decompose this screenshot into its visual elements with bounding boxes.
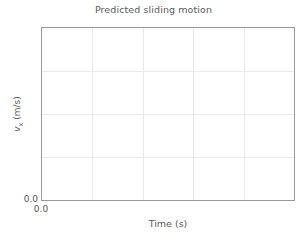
chart-figure: Predicted sliding motion vx (m/s) 0.0 0.…: [0, 0, 307, 240]
y-axis-symbol: v: [12, 126, 22, 131]
data-series-layer: [42, 28, 295, 201]
x-axis-tick-label-0: 0.0: [34, 204, 48, 214]
y-axis-label: vx (m/s): [10, 27, 24, 201]
chart-title: Predicted sliding motion: [0, 4, 307, 15]
y-axis-units: (m/s): [12, 96, 22, 122]
plot-area[interactable]: [41, 27, 295, 201]
y-axis-subscript: x: [17, 123, 25, 127]
y-axis-tick-label-0: 0.0: [24, 194, 38, 204]
x-axis-label: Time (s): [41, 218, 295, 229]
